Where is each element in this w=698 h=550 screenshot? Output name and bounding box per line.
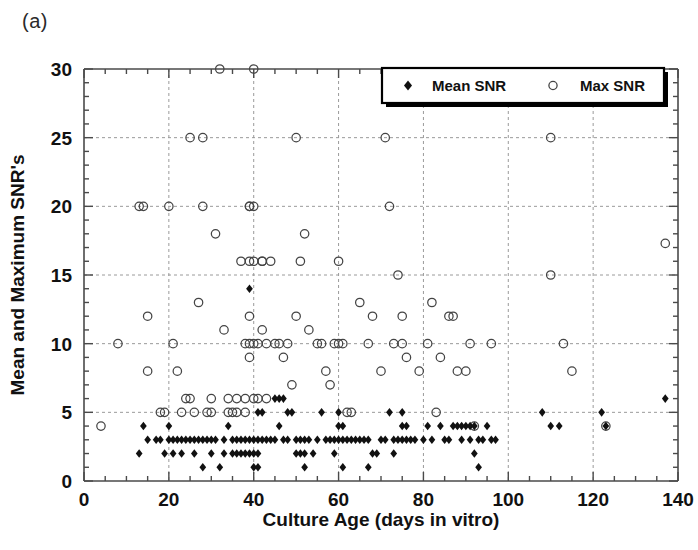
data-point-mean-snr — [178, 449, 185, 458]
data-point-mean-snr — [225, 422, 232, 431]
legend-label-mean-snr: Mean SNR — [432, 77, 506, 94]
figure-container: (a) 020406080100120140 051015202530 Cult… — [0, 0, 698, 550]
data-point-mean-snr — [280, 394, 287, 403]
data-point-max-snr — [300, 230, 308, 238]
data-point-max-snr — [143, 367, 151, 375]
data-point-mean-snr — [255, 463, 262, 472]
data-point-max-snr — [428, 298, 436, 306]
x-tick-label: 100 — [492, 489, 524, 510]
data-point-max-snr — [288, 381, 296, 389]
data-point-max-snr — [97, 422, 105, 430]
data-point-mean-snr — [365, 436, 372, 445]
data-point-max-snr — [194, 298, 202, 306]
data-point-max-snr — [368, 312, 376, 320]
data-point-max-snr — [262, 394, 270, 402]
data-point-mean-snr — [157, 436, 164, 445]
data-point-mean-snr — [144, 436, 151, 445]
data-point-max-snr — [207, 394, 215, 402]
data-point-max-snr — [258, 326, 266, 334]
data-point-mean-snr — [547, 422, 554, 431]
data-point-mean-snr — [276, 422, 283, 431]
data-point-max-snr — [258, 257, 266, 265]
data-point-mean-snr — [255, 449, 262, 458]
data-point-max-snr — [220, 326, 228, 334]
data-point-mean-snr — [365, 463, 372, 472]
data-point-mean-snr — [479, 436, 486, 445]
data-point-max-snr — [568, 367, 576, 375]
data-point-mean-snr — [458, 436, 465, 445]
data-point-mean-snr — [399, 408, 406, 417]
data-point-max-snr — [266, 257, 274, 265]
data-point-max-snr — [296, 257, 304, 265]
data-point-mean-snr — [216, 463, 223, 472]
data-point-mean-snr — [475, 463, 482, 472]
data-point-mean-snr — [598, 408, 605, 417]
x-tick-label: 40 — [243, 489, 264, 510]
data-point-mean-snr — [136, 449, 143, 458]
chart-legend[interactable]: Mean SNR Max SNR — [382, 68, 668, 107]
data-point-max-snr — [173, 367, 181, 375]
data-point-max-snr — [398, 312, 406, 320]
data-point-max-snr — [326, 381, 334, 389]
data-point-mean-snr — [420, 436, 427, 445]
data-point-mean-snr — [212, 436, 219, 445]
data-point-mean-snr — [331, 449, 338, 458]
data-point-max-snr — [453, 367, 461, 375]
data-point-mean-snr — [259, 408, 266, 417]
data-point-mean-snr — [318, 408, 325, 417]
data-point-mean-snr — [429, 436, 436, 445]
y-axis-title: Mean and Maximum SNR's — [7, 154, 28, 395]
y-tick-label: 10 — [51, 334, 72, 355]
data-point-max-snr — [415, 367, 423, 375]
data-point-max-snr — [245, 312, 253, 320]
x-tick-label: 60 — [328, 489, 349, 510]
data-point-mean-snr — [161, 449, 168, 458]
x-axis-tick-labels: 020406080100120140 — [79, 489, 694, 510]
data-point-mean-snr — [335, 408, 342, 417]
data-point-mean-snr — [471, 449, 478, 458]
data-point-max-snr — [377, 367, 385, 375]
data-point-max-snr — [143, 312, 151, 320]
data-point-max-snr — [224, 394, 232, 402]
data-point-mean-snr — [191, 449, 198, 458]
data-point-mean-snr — [284, 436, 291, 445]
data-point-mean-snr — [140, 422, 147, 431]
data-point-mean-snr — [208, 449, 215, 458]
y-tick-label: 30 — [51, 59, 72, 80]
data-point-max-snr — [279, 353, 287, 361]
data-point-mean-snr — [390, 449, 397, 458]
data-point-mean-snr — [556, 422, 563, 431]
data-point-mean-snr — [246, 284, 253, 293]
data-point-mean-snr — [467, 436, 474, 445]
data-point-mean-snr — [662, 394, 669, 403]
data-point-mean-snr — [403, 422, 410, 431]
y-tick-label: 0 — [61, 471, 72, 492]
data-point-mean-snr — [170, 449, 177, 458]
data-point-mean-snr — [221, 449, 228, 458]
data-point-mean-snr — [314, 436, 321, 445]
y-tick-label: 25 — [51, 128, 73, 149]
x-tick-label: 140 — [662, 489, 694, 510]
data-point-max-snr — [661, 239, 669, 247]
y-axis-tick-labels: 051015202530 — [51, 59, 73, 492]
data-point-mean-snr — [301, 449, 308, 458]
scatter-plot: 020406080100120140 051015202530 Culture … — [0, 0, 698, 550]
x-tick-label: 80 — [413, 489, 434, 510]
series-max-snr-points — [97, 65, 670, 430]
legend-label-max-snr: Max SNR — [580, 77, 645, 94]
data-point-mean-snr — [272, 436, 279, 445]
data-point-max-snr — [241, 394, 249, 402]
x-tick-label: 120 — [577, 489, 609, 510]
data-point-max-snr — [322, 367, 330, 375]
data-point-max-snr — [292, 312, 300, 320]
data-point-mean-snr — [339, 422, 346, 431]
data-point-mean-snr — [339, 463, 346, 472]
data-point-mean-snr — [539, 408, 546, 417]
data-point-mean-snr — [199, 463, 206, 472]
data-point-mean-snr — [310, 449, 317, 458]
data-point-mean-snr — [484, 422, 491, 431]
data-point-max-snr — [211, 230, 219, 238]
data-point-mean-snr — [437, 422, 444, 431]
data-point-mean-snr — [373, 449, 380, 458]
data-point-mean-snr — [382, 436, 389, 445]
